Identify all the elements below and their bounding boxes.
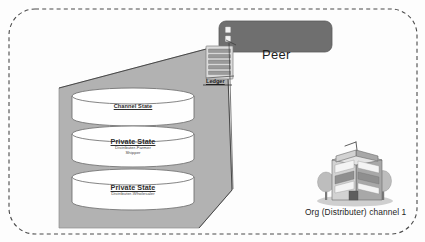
- diagram-canvas: Channel State Private State Distributer-…: [0, 0, 425, 242]
- org-building-icon: [0, 0, 425, 242]
- peer-label: Peer: [262, 47, 291, 62]
- ledger-label: Ledger: [206, 78, 225, 84]
- org-channel-caption: Org (Distributer) channel 1: [305, 207, 406, 217]
